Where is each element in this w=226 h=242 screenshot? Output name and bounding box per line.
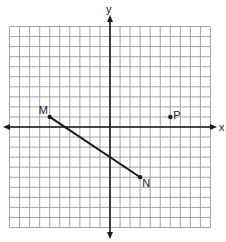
x-axis-right-arrow-icon	[210, 124, 217, 130]
y-axis-up-arrow-icon	[107, 15, 113, 22]
point-m	[48, 115, 52, 119]
y-axis-label: y	[106, 3, 112, 15]
point-p	[168, 115, 172, 119]
x-axis-left-arrow-icon	[3, 124, 10, 130]
coordinate-plane: x y M N P	[0, 0, 226, 242]
point-m-label: M	[39, 104, 48, 116]
x-axis-label: x	[219, 121, 225, 133]
axes: x y	[3, 3, 225, 239]
point-n-label: N	[142, 177, 150, 189]
y-axis-down-arrow-icon	[107, 232, 113, 239]
point-p-label: P	[173, 109, 180, 121]
